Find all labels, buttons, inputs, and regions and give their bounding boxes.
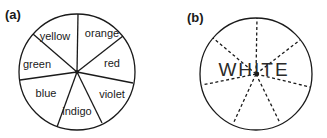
panel-b: (b) WHITE [187, 10, 312, 130]
segment-label-blue: blue [36, 87, 57, 99]
center-dot [75, 70, 79, 74]
spoke [57, 72, 77, 127]
segment-label-indigo: indigo [62, 105, 91, 117]
color-wheel-diagram: (a) yellow orange red violet indigo blue… [0, 0, 327, 138]
segment-label-orange: orange [85, 27, 119, 39]
panel-a-label: (a) [5, 7, 21, 22]
spoke [77, 72, 133, 83]
panel-b-label: (b) [187, 10, 204, 25]
center-dot [255, 72, 259, 76]
panel-a: (a) yellow orange red violet indigo blue… [5, 7, 135, 130]
spoke [20, 72, 77, 80]
segment-label-red: red [104, 57, 120, 69]
segment-label-yellow: yellow [40, 30, 71, 42]
dashed-spoke [233, 74, 256, 124]
segment-label-violet: violet [99, 88, 125, 100]
dashed-spoke [256, 74, 280, 123]
white-label: WHITE [218, 59, 289, 80]
segment-label-green: green [23, 58, 51, 70]
spoke [77, 14, 78, 72]
